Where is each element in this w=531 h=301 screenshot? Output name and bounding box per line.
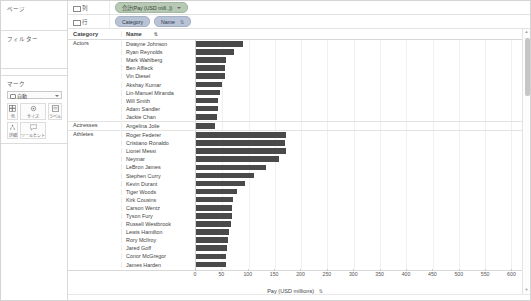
table-row[interactable]: Angelina Jolie (121, 122, 522, 130)
table-row[interactable]: Lewis Hamilton (121, 228, 522, 236)
bar-mark[interactable] (196, 82, 222, 88)
bar-mark[interactable] (196, 114, 217, 120)
vertical-scroll-thumb[interactable] (525, 38, 530, 96)
table-row[interactable]: Neymar (121, 155, 522, 163)
pages-shelf[interactable]: ページ (1, 1, 67, 31)
table-row[interactable]: Stephen Curry (121, 172, 522, 180)
bar-mark[interactable] (196, 237, 228, 243)
row-header-name[interactable]: Stephen Curry (121, 173, 195, 179)
table-row[interactable]: Roger Federer (121, 131, 522, 139)
row-header-name[interactable]: LeBron James (121, 164, 195, 170)
row-header-name[interactable]: Kirk Cousins (121, 197, 195, 203)
table-row[interactable]: Akshay Kumar (121, 80, 522, 88)
row-header-name[interactable]: Ryan Reynolds (121, 49, 195, 55)
columns-drop-area[interactable]: 合計(Pay (USD mill..)) (110, 1, 530, 14)
bar-mark[interactable] (196, 132, 286, 138)
bar-mark[interactable] (196, 181, 245, 187)
marks-size-button[interactable]: サイズ (20, 103, 46, 120)
row-header-name[interactable]: Conor McGregor (121, 253, 195, 259)
table-row[interactable]: Ben Affleck (121, 64, 522, 72)
row-header-name[interactable]: Akshay Kumar (121, 82, 195, 88)
bar-mark[interactable] (196, 90, 220, 96)
table-row[interactable]: Will Smith (121, 97, 522, 105)
bar-mark[interactable] (196, 65, 225, 71)
bar-mark[interactable] (196, 213, 232, 219)
row-header-name[interactable]: Jared Goff (121, 245, 195, 251)
row-header-name[interactable]: Rory McIlroy (121, 237, 195, 243)
sort-icon[interactable]: ⇅ (154, 31, 158, 37)
row-header-name[interactable]: Tyson Fury (121, 213, 195, 219)
table-row[interactable]: Russell Westbrook (121, 220, 522, 228)
row-header-name[interactable]: Vin Diesel (121, 73, 195, 79)
table-row[interactable]: Kirk Cousins (121, 196, 522, 204)
bar-mark[interactable] (196, 165, 266, 171)
rows-drop-area[interactable]: Category Name ⇅ (110, 15, 530, 28)
pill-sum-pay[interactable]: 合計(Pay (USD mill..)) (115, 2, 188, 13)
rows-shelf[interactable]: 行 Category Name ⇅ (68, 15, 530, 29)
pill-category[interactable]: Category (115, 16, 150, 27)
table-row[interactable]: Ryan Reynolds (121, 48, 522, 56)
bar-mark[interactable] (196, 254, 226, 260)
scroll-up-icon[interactable]: ▲ (525, 29, 529, 36)
bar-mark[interactable] (196, 173, 254, 179)
bar-mark[interactable] (196, 106, 218, 112)
row-header-name[interactable]: Mark Wahlberg (121, 57, 195, 63)
sort-icon[interactable]: ⇅ (319, 288, 323, 294)
table-row[interactable]: Carson Wentz (121, 204, 522, 212)
table-row[interactable]: Jared Goff (121, 244, 522, 252)
table-row[interactable]: Lionel Messi (121, 147, 522, 155)
row-header-name[interactable]: Tiger Woods (121, 189, 195, 195)
row-header-name[interactable]: Jackie Chan (121, 114, 195, 120)
scroll-down-icon[interactable]: ▼ (525, 287, 529, 294)
table-row[interactable]: Mark Wahlberg (121, 56, 522, 64)
row-header-name[interactable]: Carson Wentz (121, 205, 195, 211)
table-row[interactable]: Cristiano Ronaldo (121, 139, 522, 147)
row-header-category[interactable]: Actors (68, 40, 121, 121)
bar-mark[interactable] (196, 229, 229, 235)
row-header-name[interactable]: Adam Sandler (121, 106, 195, 112)
table-row[interactable]: Dwayne Johnson (121, 40, 522, 48)
table-row[interactable]: Vin Diesel (121, 72, 522, 80)
filters-shelf[interactable]: フィルター (1, 31, 67, 69)
x-axis-title[interactable]: Pay (USD millions) ⇅ (68, 288, 522, 294)
marks-detail-button[interactable]: 詳細 (7, 122, 18, 139)
row-header-name[interactable]: Lin-Manuel Miranda (121, 90, 195, 96)
row-header-name[interactable]: Ben Affleck (121, 65, 195, 71)
table-row[interactable]: Lin-Manuel Miranda (121, 89, 522, 97)
pill-name[interactable]: Name ⇅ (154, 16, 191, 27)
marks-tooltip-button[interactable]: ツールヒント (20, 122, 46, 139)
row-header-name[interactable]: Lionel Messi (121, 148, 195, 154)
table-row[interactable]: Jackie Chan (121, 113, 522, 121)
row-header-category[interactable]: Actresses (68, 122, 121, 130)
row-header-name[interactable]: Will Smith (121, 98, 195, 104)
bar-mark[interactable] (196, 49, 234, 55)
table-row[interactable]: Tyson Fury (121, 212, 522, 220)
bar-mark[interactable] (196, 98, 218, 104)
bar-mark[interactable] (196, 140, 285, 146)
row-header-name[interactable]: Neymar (121, 156, 195, 162)
table-row[interactable]: Conor McGregor (121, 252, 522, 260)
row-header-name[interactable]: Kevin Durant (121, 181, 195, 187)
bar-mark[interactable] (196, 245, 227, 251)
vertical-scrollbar[interactable]: ▲ ▼ (522, 29, 530, 294)
column-header-name[interactable]: Name ⇅ (121, 31, 195, 37)
bar-mark[interactable] (196, 205, 232, 211)
bar-mark[interactable] (196, 73, 225, 79)
table-row[interactable]: James Harden (121, 261, 522, 269)
column-header-category[interactable]: Category (68, 31, 121, 37)
table-row[interactable]: Tiger Woods (121, 188, 522, 196)
row-header-name[interactable]: Roger Federer (121, 132, 195, 138)
marks-type-dropdown[interactable]: 自動 (7, 91, 62, 99)
row-header-name[interactable]: Cristiano Ronaldo (121, 140, 195, 146)
vertical-scroll-track[interactable] (523, 36, 530, 287)
marks-label-button[interactable]: ラベル (48, 103, 62, 120)
bar-mark[interactable] (196, 41, 243, 47)
marks-color-button[interactable]: 色 (7, 103, 18, 120)
row-header-name[interactable]: Russell Westbrook (121, 221, 195, 227)
table-row[interactable]: Kevin Durant (121, 180, 522, 188)
bar-mark[interactable] (196, 221, 231, 227)
row-header-name[interactable]: James Harden (121, 262, 195, 268)
bar-mark[interactable] (196, 148, 286, 154)
bar-mark[interactable] (196, 123, 215, 129)
row-header-category[interactable]: Athletes (68, 131, 121, 269)
